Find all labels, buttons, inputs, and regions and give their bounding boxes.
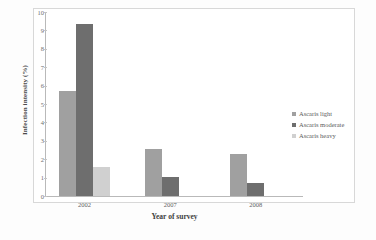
y-axis-tick-mark [44,104,47,105]
y-axis-tick-label: 7 [30,64,44,71]
y-axis-tick-label: 6 [30,82,44,89]
y-axis-tick-mark [44,196,47,197]
y-axis-tick-mark [44,86,47,87]
y-axis-tick-label: 5 [30,101,44,108]
bar [76,24,93,196]
y-axis-tick-label: 2 [30,156,44,163]
bar-group [59,12,110,196]
bar-chart-figure: Infection intensity (%) 012345678910 200… [0,0,376,240]
y-axis-tick-label: 4 [30,119,44,126]
y-axis-tick-mark [44,141,47,142]
x-axis-tick-label: 2007 [150,201,190,208]
x-axis-line [45,196,303,197]
bar [93,167,110,196]
y-axis-tick-label: 10 [30,9,44,16]
y-axis-tick-mark [44,30,47,31]
bar [247,183,264,196]
legend-item: Ascaris heavy [292,131,344,141]
legend-label: Ascaris heavy [299,132,336,140]
y-axis-tick-label: 9 [30,27,44,34]
legend-swatch-icon [292,134,296,138]
y-axis-tick-labels: 012345678910 [26,12,44,197]
bar [162,177,179,196]
legend-label: Ascaris light [299,110,332,118]
x-axis-title: Year of survey [46,212,303,221]
y-axis-tick-label: 1 [30,174,44,181]
y-axis-tick-label: 3 [30,137,44,144]
y-axis-tick-label: 0 [30,193,44,200]
bar [59,91,76,196]
y-axis-tick-mark [44,67,47,68]
bar-group [145,12,196,196]
legend-item: Ascaris moderate [292,120,344,130]
plot-area [46,12,303,196]
bar-group [230,12,281,196]
legend-swatch-icon [292,112,296,116]
legend-label: Ascaris moderate [299,121,344,129]
chart-legend: Ascaris lightAscaris moderateAscaris hea… [292,109,344,142]
y-axis-tick-label: 8 [30,45,44,52]
y-axis-tick-mark [44,12,47,13]
y-axis-tick-mark [44,49,47,50]
bar [145,149,162,196]
x-axis-tick-label: 2008 [236,201,276,208]
y-axis-tick-mark [44,159,47,160]
bar [230,154,247,196]
y-axis-tick-mark [44,122,47,123]
legend-swatch-icon [292,123,296,127]
x-axis-tick-label: 2002 [65,201,105,208]
legend-item: Ascaris light [292,109,344,119]
y-axis-tick-mark [44,178,47,179]
